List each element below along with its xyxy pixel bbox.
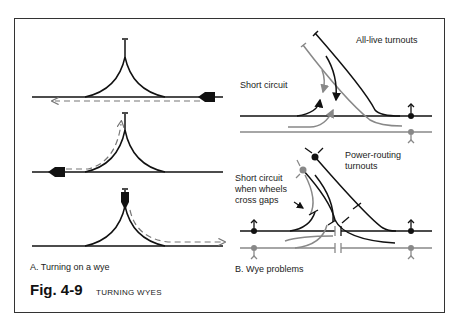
power-routing-line1: Power-routing	[345, 150, 401, 161]
power-routing-label: Power-routing turnouts	[345, 150, 401, 172]
caption-panel-b: B. Wye problems	[235, 264, 303, 275]
all-live-turnouts-label: All-live turnouts	[356, 35, 418, 46]
short-circuit-gaps-line2: when wheels	[235, 184, 287, 195]
wye-step-3	[32, 189, 223, 246]
short-circuit-label: Short circuit	[240, 80, 288, 91]
wye-step-2	[32, 113, 223, 177]
locomotive-icon	[48, 167, 65, 177]
figure-number: Fig. 4-9	[30, 281, 83, 298]
caption-panel-a: A. Turning on a wye	[30, 262, 110, 273]
locomotive-icon	[198, 92, 215, 102]
wye-step-1	[32, 39, 223, 102]
figure-title: TURNING WYES	[96, 288, 162, 297]
short-circuit-gaps-line3: cross gaps	[235, 195, 287, 206]
short-circuit-gaps-line1: Short circuit	[235, 173, 287, 184]
short-circuit-gaps-label: Short circuit when wheels cross gaps	[235, 173, 287, 206]
locomotive-icon	[121, 192, 129, 210]
power-routing-line2: turnouts	[345, 161, 401, 172]
